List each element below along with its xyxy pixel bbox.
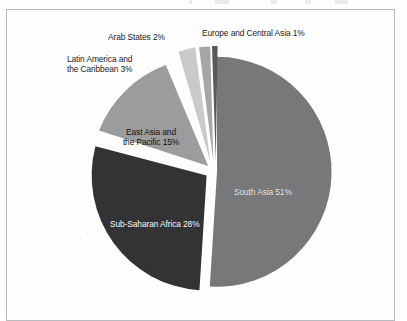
pie-slice-south-asia[interactable] — [210, 57, 332, 287]
pie-chart-svg — [6, 9, 395, 318]
pie-label-europe-central-asia: Europe and Central Asia 1% — [202, 29, 305, 39]
pie-label-south-asia: South Asia 51% — [234, 188, 292, 198]
pie-label-arab-states: Arab States 2% — [108, 33, 186, 43]
pie-chart: Europe and Central Asia 1% Arab States 2… — [6, 9, 395, 318]
pie-label-sub-saharan-africa: Sub-Saharan Africa 28% — [110, 220, 200, 230]
pie-slice-europe-central-asia[interactable] — [212, 46, 218, 161]
scan-artifact-top-text — [185, 0, 400, 4]
pie-label-east-asia-pacific: East Asia and the Pacific 15% — [110, 128, 192, 148]
pie-label-latin-america-caribbean: Latin America and the Caribbean 3% — [67, 55, 163, 75]
